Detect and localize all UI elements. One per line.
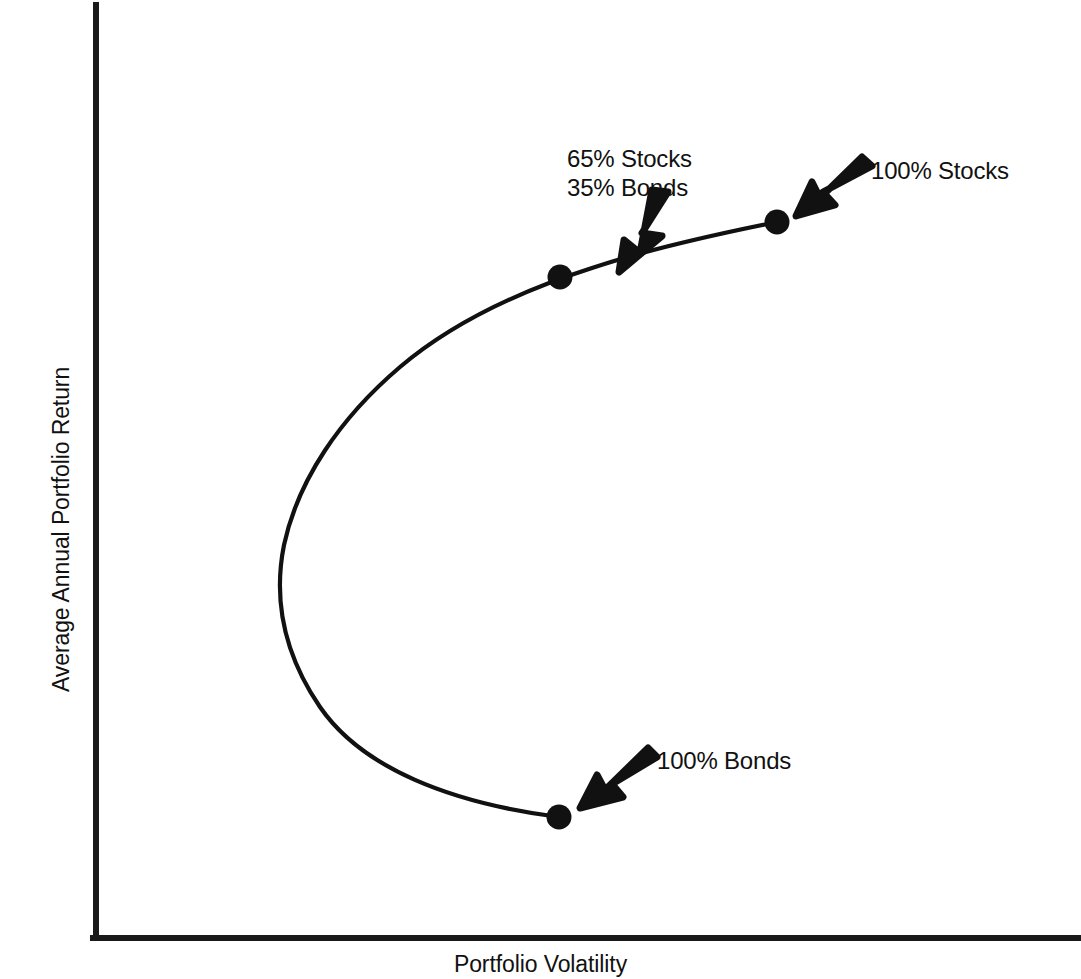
y-axis-title: Average Annual Portfolio Return <box>48 367 74 692</box>
x-axis-title: Portfolio Volatility <box>0 951 1081 977</box>
data-point-markers <box>547 210 790 830</box>
annotation-label-65-35-mix: 65% Stocks 35% Bonds <box>567 145 692 203</box>
marker-100-stocks <box>765 210 790 235</box>
marker-65-35-mix <box>548 265 573 290</box>
annotation-label-100-stocks: 100% Stocks <box>871 157 1009 186</box>
annotation-arrows <box>580 157 872 808</box>
efficient-frontier-curve <box>280 222 777 817</box>
annotation-label-100-bonds: 100% Bonds <box>657 747 791 776</box>
efficient-frontier-figure: Average Annual Portfolio Return Portfoli… <box>0 0 1081 979</box>
chart-canvas <box>0 0 1081 979</box>
frontier-path <box>280 222 777 817</box>
arrow-to-100-bonds-icon <box>580 748 657 808</box>
marker-100-bonds <box>547 805 572 830</box>
arrow-to-100-stocks-icon <box>796 157 872 216</box>
